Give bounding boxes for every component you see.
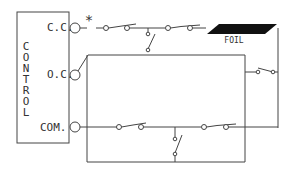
wiring-diagram: C.C. O.C. COM. C O N T R O L * FOIL [0,0,294,172]
oc-label: O.C. [47,68,74,81]
com-terminal [70,122,80,132]
com-label: COM. [40,121,67,134]
foil-label: FOIL [224,36,243,45]
control-label: C O N T R O L [23,40,30,119]
svg-text:L: L [23,106,30,119]
cc-label: C.C. [47,21,74,34]
asterisk-marker: * [85,12,93,28]
oc-loop [78,55,245,162]
foil [207,24,277,34]
